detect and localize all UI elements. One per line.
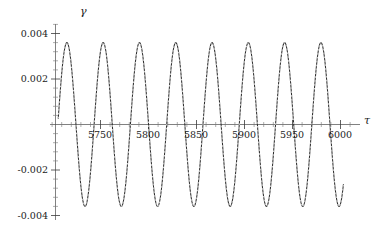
x-tick-label-6000: 6000 [328, 130, 352, 140]
x-tick-label-5950: 5950 [280, 130, 304, 140]
x-tick-label-5850: 5850 [184, 130, 208, 140]
x-tick-label-5750: 5750 [88, 130, 112, 140]
x-tick-label-5800: 5800 [136, 130, 160, 140]
x-tick-label-5900: 5900 [232, 130, 256, 140]
plot-canvas [0, 0, 389, 241]
y-tick-label-neg0p004: -0.004 [5, 211, 48, 221]
y-axis-minor-ticks [53, 24, 58, 206]
y-tick-label-neg0p002: -0.002 [5, 165, 48, 175]
y-tick-label-0p002: 0.002 [10, 74, 48, 84]
y-tick-label-0p004: 0.004 [10, 29, 48, 39]
chart-figure: γ τ 0.004 0.002 -0.002 -0.004 5750 5800 … [0, 0, 389, 241]
x-axis-label: τ [364, 115, 370, 126]
y-axis-label: γ [80, 6, 87, 17]
